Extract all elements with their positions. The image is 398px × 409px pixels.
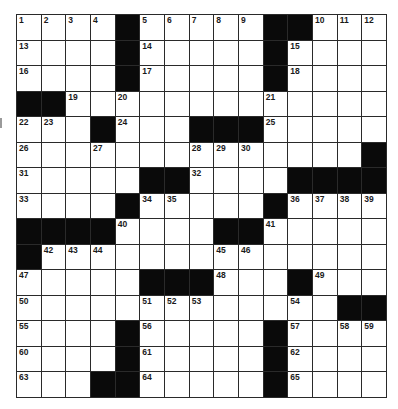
answer-cell[interactable]: 51 [140, 296, 164, 321]
answer-cell[interactable] [214, 347, 238, 372]
answer-cell[interactable] [313, 321, 337, 346]
answer-cell[interactable] [362, 270, 386, 295]
answer-cell[interactable] [42, 270, 66, 295]
answer-cell[interactable] [264, 296, 288, 321]
answer-cell[interactable] [91, 347, 115, 372]
answer-cell[interactable]: 42 [42, 245, 66, 270]
answer-cell[interactable] [264, 270, 288, 295]
answer-cell[interactable] [66, 194, 90, 219]
answer-cell[interactable]: 43 [66, 245, 90, 270]
answer-cell[interactable] [66, 347, 90, 372]
answer-cell[interactable]: 34 [140, 194, 164, 219]
answer-cell[interactable] [190, 41, 214, 66]
answer-cell[interactable] [338, 117, 362, 142]
answer-cell[interactable] [239, 347, 263, 372]
answer-cell[interactable] [116, 270, 140, 295]
answer-cell[interactable] [91, 270, 115, 295]
answer-cell[interactable] [66, 296, 90, 321]
answer-cell[interactable]: 4 [91, 15, 115, 40]
answer-cell[interactable] [362, 219, 386, 244]
answer-cell[interactable] [165, 372, 189, 397]
answer-cell[interactable] [338, 270, 362, 295]
answer-cell[interactable]: 8 [214, 15, 238, 40]
answer-cell[interactable] [362, 372, 386, 397]
answer-cell[interactable] [214, 41, 238, 66]
answer-cell[interactable] [165, 66, 189, 91]
answer-cell[interactable] [313, 41, 337, 66]
answer-cell[interactable] [91, 168, 115, 193]
answer-cell[interactable]: 39 [362, 194, 386, 219]
answer-cell[interactable]: 27 [91, 143, 115, 168]
answer-cell[interactable]: 23 [42, 117, 66, 142]
answer-cell[interactable] [190, 66, 214, 91]
answer-cell[interactable] [42, 321, 66, 346]
answer-cell[interactable]: 18 [288, 66, 312, 91]
answer-cell[interactable]: 10 [313, 15, 337, 40]
answer-cell[interactable] [214, 321, 238, 346]
answer-cell[interactable] [362, 347, 386, 372]
answer-cell[interactable] [66, 41, 90, 66]
answer-cell[interactable]: 57 [288, 321, 312, 346]
answer-cell[interactable]: 44 [91, 245, 115, 270]
answer-cell[interactable] [91, 194, 115, 219]
answer-cell[interactable]: 24 [116, 117, 140, 142]
answer-cell[interactable]: 25 [264, 117, 288, 142]
answer-cell[interactable] [165, 321, 189, 346]
answer-cell[interactable]: 17 [140, 66, 164, 91]
answer-cell[interactable] [288, 117, 312, 142]
answer-cell[interactable] [338, 219, 362, 244]
answer-cell[interactable] [264, 143, 288, 168]
answer-cell[interactable] [91, 92, 115, 117]
answer-cell[interactable] [190, 92, 214, 117]
answer-cell[interactable] [165, 219, 189, 244]
answer-cell[interactable]: 59 [362, 321, 386, 346]
answer-cell[interactable] [239, 372, 263, 397]
answer-cell[interactable]: 56 [140, 321, 164, 346]
answer-cell[interactable] [239, 270, 263, 295]
answer-cell[interactable]: 47 [17, 270, 41, 295]
answer-cell[interactable] [288, 245, 312, 270]
answer-cell[interactable] [140, 92, 164, 117]
answer-cell[interactable] [140, 219, 164, 244]
answer-cell[interactable] [165, 92, 189, 117]
answer-cell[interactable] [165, 347, 189, 372]
answer-cell[interactable]: 29 [214, 143, 238, 168]
answer-cell[interactable]: 13 [17, 41, 41, 66]
answer-cell[interactable] [214, 92, 238, 117]
answer-cell[interactable] [313, 117, 337, 142]
answer-cell[interactable]: 3 [66, 15, 90, 40]
answer-cell[interactable] [214, 194, 238, 219]
answer-cell[interactable] [239, 168, 263, 193]
answer-cell[interactable] [190, 194, 214, 219]
answer-cell[interactable] [264, 168, 288, 193]
answer-cell[interactable]: 55 [17, 321, 41, 346]
answer-cell[interactable]: 5 [140, 15, 164, 40]
answer-cell[interactable] [338, 143, 362, 168]
answer-cell[interactable]: 46 [239, 245, 263, 270]
answer-cell[interactable] [66, 66, 90, 91]
answer-cell[interactable]: 21 [264, 92, 288, 117]
answer-cell[interactable] [239, 41, 263, 66]
answer-cell[interactable] [116, 245, 140, 270]
answer-cell[interactable] [42, 143, 66, 168]
answer-cell[interactable] [42, 296, 66, 321]
answer-cell[interactable]: 15 [288, 41, 312, 66]
answer-cell[interactable] [42, 194, 66, 219]
answer-cell[interactable] [66, 168, 90, 193]
answer-cell[interactable]: 9 [239, 15, 263, 40]
answer-cell[interactable] [239, 92, 263, 117]
answer-cell[interactable] [313, 66, 337, 91]
answer-cell[interactable] [91, 321, 115, 346]
answer-cell[interactable] [165, 117, 189, 142]
answer-cell[interactable]: 48 [214, 270, 238, 295]
answer-cell[interactable]: 7 [190, 15, 214, 40]
answer-cell[interactable] [190, 347, 214, 372]
answer-cell[interactable]: 14 [140, 41, 164, 66]
answer-cell[interactable] [362, 117, 386, 142]
answer-cell[interactable] [214, 66, 238, 91]
answer-cell[interactable]: 40 [116, 219, 140, 244]
answer-cell[interactable] [239, 194, 263, 219]
answer-cell[interactable] [66, 321, 90, 346]
answer-cell[interactable]: 12 [362, 15, 386, 40]
answer-cell[interactable] [91, 296, 115, 321]
